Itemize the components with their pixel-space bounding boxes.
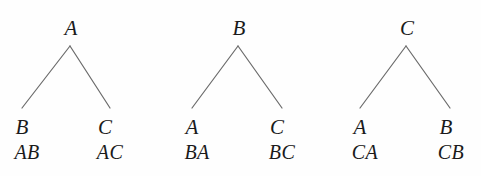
tree-c-left-path-label: CA: [352, 142, 378, 162]
tree-c-root-node: C: [400, 18, 414, 39]
tree-c-right-path-label: CB: [438, 142, 464, 162]
tree-c-right-leaf-node: B: [439, 117, 452, 138]
tree-c-left-leaf-node: A: [353, 117, 366, 138]
tree-c: C A B CA CB: [0, 0, 481, 176]
tree-diagram-figure: A B C AB AC B A C BA BC C A B CA CB: [0, 0, 481, 176]
